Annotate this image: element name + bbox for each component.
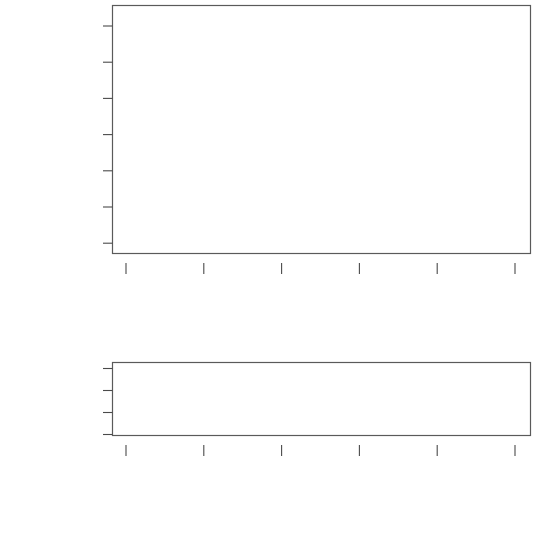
figure-container	[0, 0, 540, 536]
top-y-ticks	[103, 26, 113, 243]
top-panel	[103, 6, 531, 275]
top-plot-frame	[113, 6, 531, 254]
top-x-ticks	[126, 263, 515, 274]
bottom-y-ticks	[103, 369, 113, 435]
bottom-panel	[103, 363, 531, 457]
bottom-x-ticks	[126, 445, 515, 456]
chart-svg	[0, 0, 540, 536]
bottom-plot-frame	[113, 363, 531, 436]
